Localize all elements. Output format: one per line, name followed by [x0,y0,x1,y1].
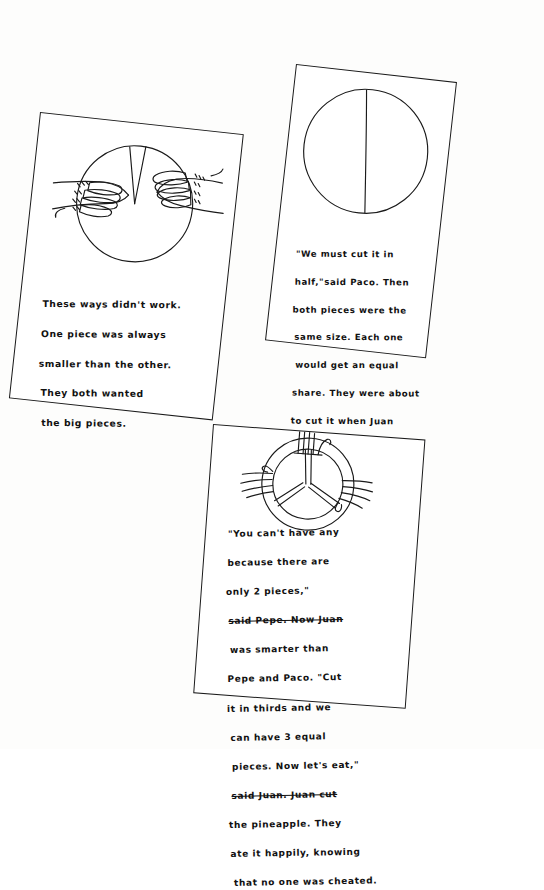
caption-line: ate it happily, knowing [230,844,425,862]
caption-line: that no one was cheated. [234,873,426,890]
caption-line: These ways didn't work. [42,297,228,314]
caption-line: both pieces were the [292,303,449,318]
panel-1-caption: These ways didn't work. One piece was al… [37,282,229,448]
caption-line: said Juan. Juan cut [231,786,424,804]
caption-line: can have 3 equal [230,727,423,745]
illustration-pineapple-halved [278,65,455,247]
caption-line: same size. Each one [294,331,449,346]
cut-line-right [135,146,146,204]
story-panel-equal-thirds: "You can't have any because there are on… [193,424,425,709]
caption-line: "We must cut it in [296,248,450,263]
caption-line: would get an equal [295,359,449,374]
caption-line: pieces. Now let's eat," [232,756,424,774]
caption-line: only 2 pieces," [226,581,421,599]
caption-line: it in thirds and we [227,698,423,716]
illustration-pineapple-two-hands [23,113,243,304]
caption-line: the pineapple. They [229,815,425,833]
cut-line-left [124,147,141,204]
caption-line: because there are [227,552,420,570]
caption-line: the big pieces. [41,416,227,433]
caption-line: "You can't have any [228,523,420,541]
caption-line: One piece was always [41,327,228,344]
caption-line: to cut it when Juan [291,415,449,430]
caption-line: was smarter than [230,640,422,658]
caption-line: They both wanted [40,386,227,403]
caption-line: smaller than the other. [39,356,228,373]
left-hand [240,464,275,499]
cut-line-half [353,90,379,213]
left-hand [50,177,130,225]
caption-line: said Pepe. Now Juan [228,611,421,629]
right-hand [150,162,228,214]
top-hand [294,431,331,456]
story-panel-equal-halves: "We must cut it in half,"said Paco. Then… [265,64,457,358]
caption-line: Pepe and Paco. "Cut [227,669,422,687]
panel-3-caption: "You can't have any because there are on… [224,509,427,890]
caption-line: share. They were about [292,387,449,402]
caption-line: half,"said Paco. Then [295,275,450,290]
story-panel-unequal-halves: These ways didn't work. One piece was al… [9,112,244,420]
